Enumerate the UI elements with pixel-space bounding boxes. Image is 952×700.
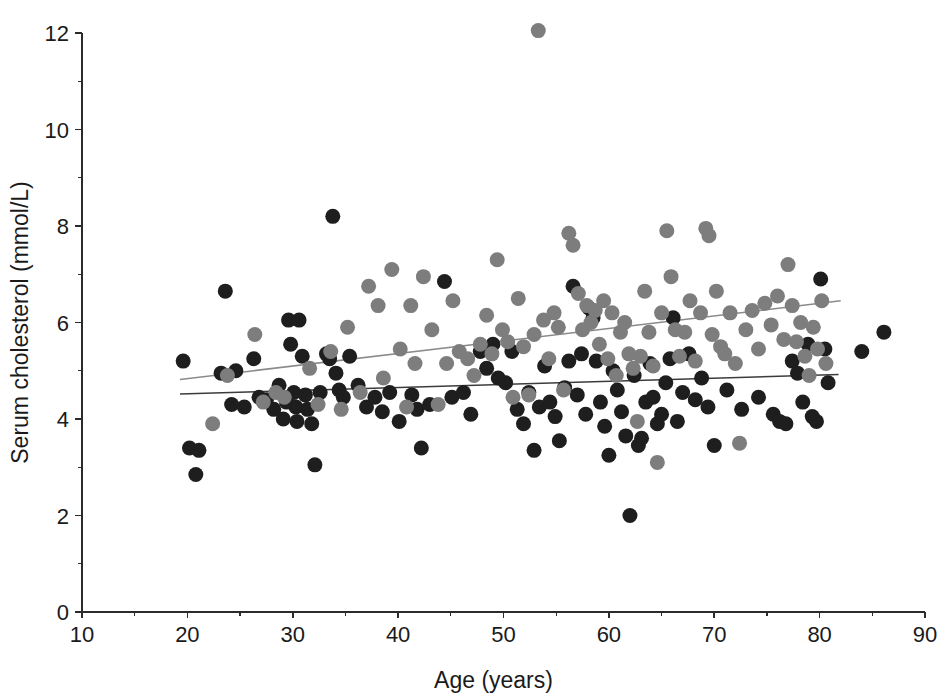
y-axis-tick-label: 4 [57, 407, 69, 432]
data-point [289, 414, 304, 429]
data-point [511, 291, 526, 306]
data-point [809, 414, 824, 429]
data-point [516, 416, 531, 431]
data-point [256, 395, 271, 410]
x-axis-tick-label: 10 [70, 622, 94, 647]
data-point [376, 370, 391, 385]
data-point [479, 308, 494, 323]
data-point [392, 414, 407, 429]
data-point [220, 368, 235, 383]
data-point [399, 399, 414, 414]
data-point [757, 296, 772, 311]
data-point [654, 407, 669, 422]
data-point [237, 399, 252, 414]
data-point [601, 448, 616, 463]
x-axis-title: Age (years) [434, 667, 553, 693]
data-point [677, 325, 692, 340]
data-point [556, 383, 571, 398]
data-point [224, 397, 239, 412]
data-point [342, 349, 357, 364]
data-point [814, 293, 829, 308]
data-point [407, 356, 422, 371]
data-point [460, 351, 475, 366]
data-point [246, 351, 261, 366]
data-point [818, 356, 833, 371]
y-axis-tick-label: 0 [57, 600, 69, 625]
data-point [659, 223, 674, 238]
data-point [683, 293, 698, 308]
data-point [414, 440, 429, 455]
data-point [617, 315, 632, 330]
data-point [789, 334, 804, 349]
data-point [298, 387, 313, 402]
data-point [709, 284, 724, 299]
x-axis-tick-label: 50 [491, 622, 515, 647]
data-point [574, 346, 589, 361]
data-point [445, 293, 460, 308]
data-point [367, 390, 382, 405]
data-point [637, 284, 652, 299]
data-point [531, 23, 546, 38]
data-point [764, 317, 779, 332]
data-point [734, 402, 749, 417]
y-axis-tick-label: 8 [57, 214, 69, 239]
data-point [707, 438, 722, 453]
data-point [416, 269, 431, 284]
data-point [622, 508, 637, 523]
data-point [542, 395, 557, 410]
data-point [806, 320, 821, 335]
data-point [551, 320, 566, 335]
data-point [701, 228, 716, 243]
data-point [384, 262, 399, 277]
data-point [505, 390, 520, 405]
data-point [490, 252, 505, 267]
data-point [854, 344, 869, 359]
data-point [527, 443, 542, 458]
data-point [688, 392, 703, 407]
data-point [571, 286, 586, 301]
data-point [277, 390, 292, 405]
data-point [650, 455, 665, 470]
data-point [630, 414, 645, 429]
data-point [340, 320, 355, 335]
data-point [205, 416, 220, 431]
data-point [592, 337, 607, 352]
data-point [382, 385, 397, 400]
data-point [463, 407, 478, 422]
data-point [218, 284, 233, 299]
data-point [302, 361, 317, 376]
data-point [614, 404, 629, 419]
data-point [403, 298, 418, 313]
data-point [548, 409, 563, 424]
x-axis-tick-label: 80 [807, 622, 831, 647]
data-point [646, 390, 661, 405]
data-point [188, 467, 203, 482]
data-point [813, 272, 828, 287]
data-point [593, 395, 608, 410]
data-point [700, 399, 715, 414]
data-point [675, 385, 690, 400]
x-axis-tick-label: 60 [597, 622, 621, 647]
data-point [810, 342, 825, 357]
y-axis-tick-label: 6 [57, 311, 69, 336]
data-point [738, 322, 753, 337]
data-point [325, 209, 340, 224]
data-point [304, 416, 319, 431]
data-point [723, 305, 738, 320]
data-point [541, 351, 556, 366]
data-point [795, 395, 810, 410]
data-point [609, 368, 624, 383]
data-point [371, 298, 386, 313]
data-point [633, 349, 648, 364]
data-point [353, 385, 368, 400]
data-point [473, 337, 488, 352]
data-point [552, 433, 567, 448]
data-point [770, 288, 785, 303]
y-axis-tick-label: 12 [45, 21, 69, 46]
data-point [323, 344, 338, 359]
data-point [431, 397, 446, 412]
data-point [311, 397, 326, 412]
data-point [439, 356, 454, 371]
data-point [479, 361, 494, 376]
data-point [247, 327, 262, 342]
